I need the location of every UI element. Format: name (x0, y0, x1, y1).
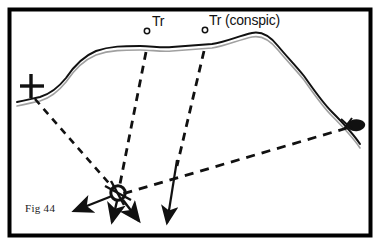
tower-conspicuous-label: Tr (conspic) (209, 13, 280, 27)
chart-diagram-canvas (0, 0, 380, 245)
figure-container: Tr Tr (conspic) Fig 44 (0, 0, 380, 245)
figure-caption: Fig 44 (25, 203, 55, 214)
tower-label: Tr (152, 14, 164, 28)
